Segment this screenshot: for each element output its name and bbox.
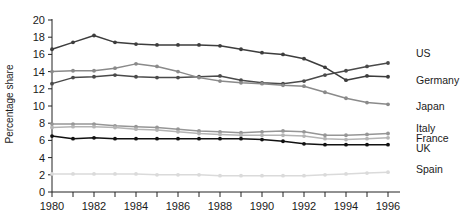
data-point: [113, 137, 117, 141]
y-tick-label: 10: [33, 100, 45, 112]
data-point: [50, 82, 54, 86]
data-point: [386, 136, 390, 140]
data-point: [197, 76, 201, 80]
data-point: [239, 133, 243, 137]
data-point: [218, 174, 222, 178]
data-point: [50, 70, 54, 74]
y-axis-title: Percentage share: [4, 64, 15, 143]
data-point: [281, 53, 285, 57]
data-point: [281, 133, 285, 137]
data-point: [260, 130, 264, 134]
data-point: [260, 133, 264, 137]
data-point: [239, 81, 243, 85]
data-point: [176, 130, 180, 134]
data-point: [71, 69, 75, 73]
line-chart: 02468101214161820 1980198219841986198819…: [0, 0, 470, 222]
data-point: [344, 78, 348, 82]
data-point: [176, 137, 180, 141]
data-point: [281, 139, 285, 143]
data-point: [176, 70, 180, 74]
data-point: [155, 76, 159, 80]
data-point: [365, 74, 369, 78]
data-point: [176, 173, 180, 177]
data-point: [71, 76, 75, 80]
data-point: [344, 133, 348, 137]
data-point: [386, 132, 390, 136]
data-point: [260, 174, 264, 178]
data-point: [134, 75, 138, 79]
data-point: [302, 84, 306, 88]
data-point: [365, 101, 369, 105]
data-point: [113, 126, 117, 130]
data-point: [71, 137, 75, 141]
data-point: [71, 40, 75, 44]
y-tick-label: 6: [39, 134, 45, 146]
data-point: [92, 69, 96, 73]
y-tick-label: 2: [39, 169, 45, 181]
data-point: [92, 172, 96, 176]
data-point: [113, 172, 117, 176]
data-point: [113, 66, 117, 70]
data-point: [323, 65, 327, 69]
data-point: [218, 74, 222, 78]
legend-label-spain: Spain: [416, 163, 443, 175]
data-point: [281, 174, 285, 178]
data-point: [281, 129, 285, 133]
legend-label-germany: Germany: [416, 74, 460, 86]
data-point: [365, 171, 369, 175]
data-point: [176, 76, 180, 80]
data-point: [386, 170, 390, 174]
data-point: [344, 96, 348, 100]
data-point: [197, 43, 201, 47]
data-point: [386, 75, 390, 79]
data-point: [302, 130, 306, 134]
data-point: [365, 132, 369, 136]
data-point: [134, 127, 138, 131]
data-point: [50, 126, 54, 130]
y-tick-label: 0: [39, 186, 45, 198]
data-point: [323, 173, 327, 177]
data-point: [302, 79, 306, 83]
data-point: [323, 137, 327, 141]
data-point: [155, 65, 159, 69]
x-tick-label: 1988: [208, 200, 232, 212]
data-point: [302, 174, 306, 178]
data-point: [92, 136, 96, 140]
x-axis: 198019821984198619881990199219941996: [40, 192, 400, 212]
data-point: [344, 143, 348, 147]
data-point: [50, 47, 54, 51]
data-point: [302, 57, 306, 61]
data-point: [113, 40, 117, 44]
chart-canvas: 02468101214161820 1980198219841986198819…: [0, 0, 470, 222]
y-tick-label: 20: [33, 14, 45, 26]
data-point: [281, 83, 285, 87]
data-point: [239, 174, 243, 178]
data-point: [344, 69, 348, 73]
data-point: [260, 82, 264, 86]
data-point: [218, 44, 222, 48]
y-tick-label: 18: [33, 31, 45, 43]
data-point: [155, 128, 159, 132]
data-point: [134, 42, 138, 46]
data-point: [50, 134, 54, 138]
data-point: [50, 122, 54, 126]
legend-label-japan: Japan: [416, 100, 445, 112]
x-tick-label: 1994: [334, 200, 358, 212]
y-tick-label: 14: [33, 66, 45, 78]
y-tick-label: 4: [39, 152, 45, 164]
data-point: [239, 47, 243, 51]
y-tick-label: 12: [33, 83, 45, 95]
data-point: [386, 143, 390, 147]
data-point: [218, 132, 222, 136]
y-tick-label: 8: [39, 117, 45, 129]
x-tick-label: 1986: [166, 200, 190, 212]
legend-label-us: US: [416, 47, 431, 59]
plot-background: [0, 0, 470, 222]
data-point: [92, 34, 96, 38]
data-point: [323, 133, 327, 137]
data-point: [155, 43, 159, 47]
data-point: [155, 173, 159, 177]
legend-label-uk: UK: [416, 142, 431, 154]
data-point: [344, 138, 348, 142]
data-point: [323, 73, 327, 77]
